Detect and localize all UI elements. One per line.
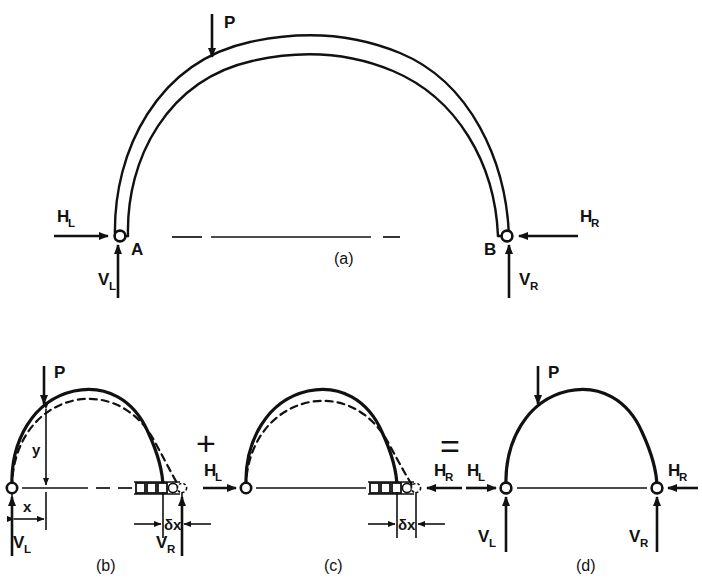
reaction-label-vl-sub: L bbox=[109, 280, 116, 292]
roller-element-b-4 bbox=[168, 483, 177, 492]
roller-element-c-4 bbox=[402, 483, 411, 492]
reaction-label-vr-d-sub: R bbox=[640, 537, 649, 549]
operator-plus: + bbox=[196, 424, 216, 462]
panel-caption-a: (a) bbox=[334, 250, 354, 267]
point-label-a: A bbox=[131, 240, 143, 259]
support-pin-b bbox=[502, 231, 513, 242]
reaction-label-hr-d-sub: R bbox=[679, 471, 688, 483]
panel-caption-d: (d) bbox=[576, 557, 596, 574]
reaction-label-vr-sub: R bbox=[530, 280, 539, 292]
operator-equals: = bbox=[440, 427, 460, 465]
support-pin-a bbox=[115, 231, 126, 242]
reaction-label-vr-b-sub: R bbox=[167, 543, 176, 555]
dimension-label-x: x bbox=[23, 498, 32, 515]
load-label-p-b: P bbox=[54, 363, 65, 382]
dimension-label-dx-c: δx bbox=[398, 516, 416, 533]
load-label-p: P bbox=[224, 13, 235, 32]
roller-element-b-1 bbox=[136, 483, 145, 493]
support-pin-b-left bbox=[7, 483, 17, 493]
reaction-label-vl-b-sub: L bbox=[24, 543, 31, 555]
roller-element-c-2 bbox=[381, 483, 390, 493]
thrust-label-hl-c-sub: L bbox=[215, 471, 222, 483]
dimension-label-dx-b: δx bbox=[164, 516, 182, 533]
roller-displaced-marker-b bbox=[177, 483, 186, 492]
reaction-label-hl-d-sub: L bbox=[478, 471, 485, 483]
support-pin-d-left bbox=[501, 483, 512, 494]
support-roller-b bbox=[134, 482, 187, 494]
reaction-label-hl-sub: L bbox=[68, 217, 75, 229]
roller-element-c-1 bbox=[370, 483, 379, 493]
load-label-p-d: P bbox=[548, 363, 559, 382]
dimension-label-y: y bbox=[32, 441, 41, 458]
point-label-b: B bbox=[484, 240, 496, 259]
roller-element-c-3 bbox=[392, 483, 401, 493]
roller-element-b-2 bbox=[147, 483, 156, 493]
figure-background bbox=[0, 0, 702, 586]
support-pin-c-left bbox=[241, 483, 251, 493]
thrust-label-hr-c-sub: R bbox=[445, 471, 454, 483]
reaction-label-vl-d-sub: L bbox=[489, 537, 496, 549]
support-roller-c bbox=[368, 482, 421, 494]
roller-element-b-3 bbox=[158, 483, 167, 493]
support-pin-d-right bbox=[652, 483, 663, 494]
panel-caption-c: (c) bbox=[324, 557, 343, 574]
arch-superposition-figure: P H L V L A H R V R B (a) P bbox=[0, 0, 702, 586]
roller-displaced-marker-c bbox=[411, 483, 420, 492]
reaction-label-hr-sub: R bbox=[591, 217, 600, 229]
panel-caption-b: (b) bbox=[96, 557, 116, 574]
